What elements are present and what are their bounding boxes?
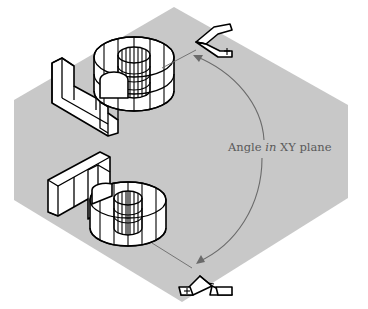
- upper-cylinder: [94, 37, 174, 111]
- angle-label: Angle in XY plane: [226, 140, 334, 154]
- xy-plane: [14, 7, 348, 302]
- lower-cylinder: [90, 182, 166, 246]
- diagram-canvas: Angle in XY plane: [0, 0, 368, 309]
- diagram-svg: [0, 0, 368, 309]
